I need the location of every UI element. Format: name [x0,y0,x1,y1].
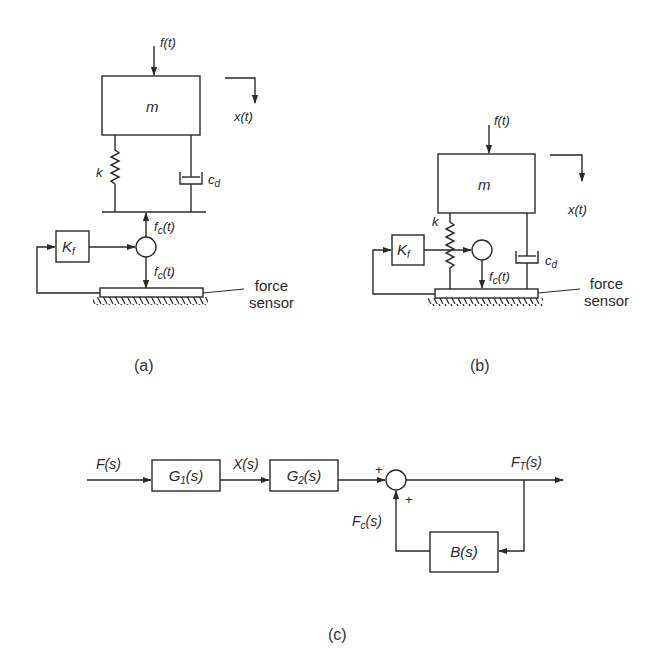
input-label: F(s) [96,457,121,471]
gain-label-a: Kf [62,239,75,257]
sensor-label-b: forcesensor [584,275,629,309]
g1-argument: (s) [186,467,204,484]
mass-label-a: m [146,99,159,114]
damper-label-b: cd [545,254,557,270]
figure-a [37,46,255,305]
output-label: FT(s) [511,455,542,472]
ft-symbol: F [511,454,520,470]
sensor-label-line1: force [584,275,629,292]
ground-a [93,297,208,305]
caption-c: (c) [328,627,347,643]
damper-b [516,213,538,289]
sensor-label-line2: sensor [249,294,294,311]
force-label-b: f(t) [494,114,510,127]
summing-junction [386,470,406,490]
fc-argument: (s) [366,513,382,529]
mass-label-b: m [478,177,491,192]
block-b-label: B(s) [430,544,498,559]
g2-argument: (s) [304,467,322,484]
damper-label-a: cd [208,173,220,189]
sum-sign-top: + [375,463,383,476]
actuator-a [136,237,156,257]
diagram-canvas [0,0,670,670]
force-sensor-b [435,289,538,298]
sensor-leader-b [538,289,580,293]
force-sensor-a [100,288,203,297]
feedback-to-sum-arrow [396,491,430,551]
feedback-to-b-arrow [499,480,524,551]
sensor-label-a: forcesensor [249,277,294,311]
fc-symbol: F [352,513,361,529]
caption-a: (a) [134,358,154,374]
spring-a [111,135,119,212]
force-label-a: f(t) [160,36,176,49]
control-force-label-b: fc(t) [489,270,510,286]
fc-argument: (t) [498,269,510,284]
block-g2-label: G2(s) [270,468,338,486]
spring-b [446,213,454,289]
feedback-signal-label: Fc(s) [352,514,382,531]
sensor-label-line2: sensor [584,292,629,309]
figure-b [373,125,582,306]
spring-label-b: k [432,215,439,228]
damper-a [180,135,202,212]
displacement-arrow-b [550,155,582,181]
sum-sign-bottom: + [405,493,413,506]
caption-b: (b) [470,358,490,374]
displacement-label-b: x(t) [568,203,587,216]
ground-b [428,298,543,306]
ft-argument: (s) [526,454,542,470]
displacement-label-a: x(t) [234,110,253,123]
gain-symbol: K [397,241,407,258]
control-force-up-label-a: fc(t) [154,220,175,236]
sensor-leader-a [203,289,244,293]
g2-symbol: G [287,467,299,484]
block-g1-label: G1(s) [152,468,220,486]
actuator-b [472,240,492,260]
damper-subscript: d [215,178,221,189]
gain-subscript: f [407,249,410,260]
control-force-down-label-a: fc(t) [154,265,175,281]
gain-label-b: Kf [397,242,410,260]
g1-symbol: G [169,467,181,484]
spring-label-a: k [96,166,103,179]
fc-argument: (t) [163,264,175,279]
damper-subscript: d [552,259,558,270]
sensor-label-line1: force [249,277,294,294]
gain-symbol: K [62,238,72,255]
displacement-arrow-a [225,78,255,103]
intermediate-label: X(s) [233,457,259,471]
fc-argument: (t) [163,219,175,234]
gain-subscript: f [72,246,75,257]
